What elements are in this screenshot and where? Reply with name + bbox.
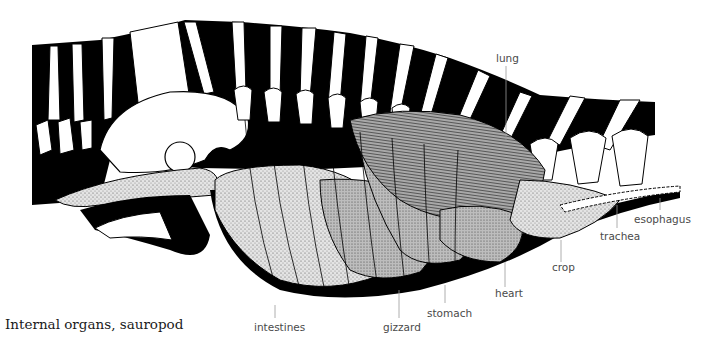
label-intestines: intestines <box>254 321 305 333</box>
label-heart: heart <box>495 287 523 299</box>
label-stomach: stomach <box>427 307 472 319</box>
label-esophagus: esophagus <box>634 213 691 225</box>
vertebral-column <box>32 20 655 186</box>
label-crop: crop <box>552 261 575 273</box>
hip-socket <box>165 142 195 172</box>
label-gizzard: gizzard <box>383 321 421 333</box>
sauropod-anatomy-illustration: lung esophagus trachea crop heart stomac… <box>0 0 701 349</box>
figure-caption: Internal organs, sauropod <box>5 316 183 332</box>
label-trachea: trachea <box>600 230 640 242</box>
label-lung: lung <box>496 52 519 64</box>
